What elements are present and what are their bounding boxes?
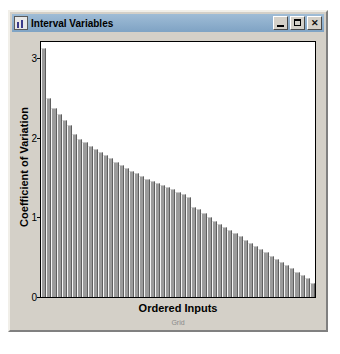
close-button[interactable]: ✕ <box>307 16 322 30</box>
y-axis-tick-mark <box>37 138 41 139</box>
minimize-button[interactable] <box>273 16 288 30</box>
bar <box>310 283 315 297</box>
y-axis-label: Coefficient of Variation <box>16 35 32 298</box>
maximize-button[interactable] <box>290 16 305 30</box>
x-axis-label: Ordered Inputs <box>40 302 316 314</box>
window-titlebar[interactable]: Interval Variables ✕ <box>12 14 324 32</box>
chart-icon <box>14 16 28 30</box>
bar-series <box>41 42 315 297</box>
y-axis-tick-mark <box>37 297 41 298</box>
window-title: Interval Variables <box>31 18 273 29</box>
window-client-area: Coefficient of Variation 0123 Ordered In… <box>14 35 322 326</box>
x-axis-sublabel: Grid <box>40 319 316 326</box>
plot-area: 0123 <box>40 41 316 298</box>
window-controls: ✕ <box>273 16 322 30</box>
chart-window: Interval Variables ✕ Coefficient of Vari… <box>8 10 328 332</box>
y-axis-tick-mark <box>37 217 41 218</box>
y-axis-tick-mark <box>37 58 41 59</box>
